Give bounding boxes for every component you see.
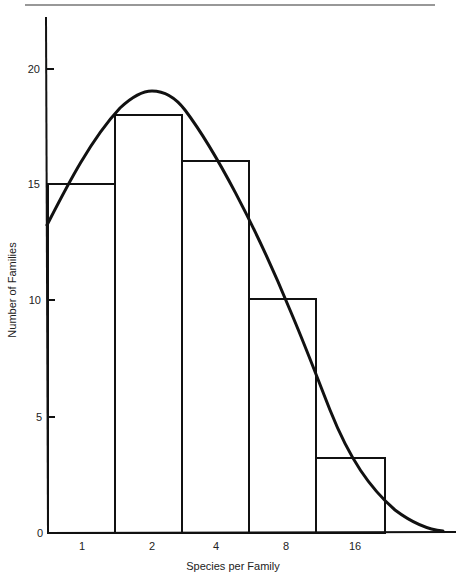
y-tick-label: 5 [36, 411, 42, 423]
x-axis [47, 532, 456, 533]
x-tick-label: 16 [349, 540, 361, 552]
bar-5 [316, 458, 385, 533]
y-tick-label: 0 [37, 527, 43, 539]
x-tick-label: 1 [79, 540, 85, 552]
y-tick-label: 15 [28, 178, 40, 190]
x-tick-label: 2 [149, 540, 155, 552]
bar-1 [48, 184, 115, 533]
x-axis-title: Species per Family [186, 560, 280, 572]
bar-3 [182, 161, 249, 533]
x-tick-label: 4 [213, 540, 219, 552]
x-tick-label: 8 [283, 540, 289, 552]
y-tick-label: 20 [28, 63, 40, 75]
bar-4 [249, 299, 316, 533]
fitted-curve [47, 91, 443, 531]
y-tick-label: 10 [29, 294, 41, 306]
y-axis-title: Number of Families [6, 242, 18, 338]
histogram-chart: 20 15 10 5 0 1 2 4 8 16 Species per Fami… [0, 0, 460, 579]
bars [48, 115, 385, 533]
y-axis [46, 17, 48, 533]
bar-2 [115, 115, 182, 533]
